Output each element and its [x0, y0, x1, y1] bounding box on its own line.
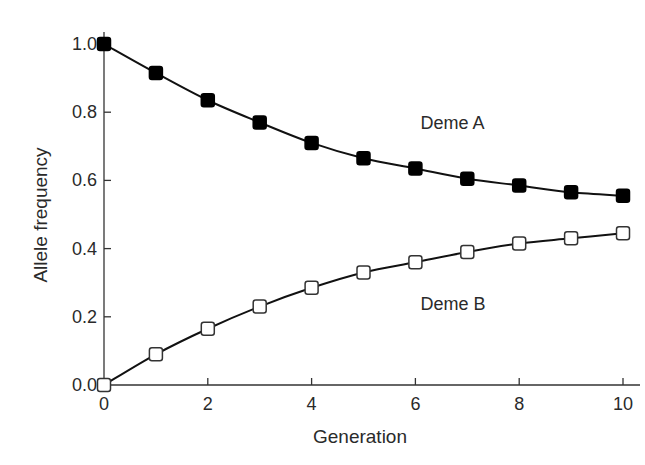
x-axis-title: Generation — [313, 426, 407, 447]
data-point-deme-a — [98, 38, 111, 51]
data-point-deme-b — [201, 322, 214, 335]
x-tick-label: 6 — [410, 394, 420, 414]
data-point-deme-a — [461, 172, 474, 185]
data-point-deme-b — [565, 232, 578, 245]
data-point-deme-a — [357, 152, 370, 165]
data-point-deme-b — [98, 379, 111, 392]
data-point-deme-a — [617, 189, 630, 202]
x-tick-label: 4 — [307, 394, 317, 414]
data-point-deme-b — [305, 281, 318, 294]
y-axis-ticks: 0.00.20.40.60.81.0 — [72, 34, 111, 395]
data-point-deme-a — [305, 136, 318, 149]
x-axis-ticks: 0246810 — [99, 378, 633, 414]
x-tick-label: 10 — [613, 394, 633, 414]
data-point-deme-b — [149, 348, 162, 361]
data-point-deme-a — [409, 162, 422, 175]
x-tick-label: 8 — [514, 394, 524, 414]
y-tick-label: 0.0 — [72, 375, 97, 395]
y-axis-title: Allele frequency — [30, 147, 51, 283]
allele-frequency-chart: 0.00.20.40.60.81.0 0246810 Generation Al… — [0, 0, 645, 465]
series-line-deme-b — [104, 233, 623, 385]
data-point-deme-a — [201, 94, 214, 107]
data-point-deme-a — [513, 179, 526, 192]
y-tick-label: 0.6 — [72, 170, 97, 190]
y-tick-label: 0.2 — [72, 307, 97, 327]
data-point-deme-a — [253, 116, 266, 129]
data-point-deme-b — [513, 237, 526, 250]
y-tick-label: 0.4 — [72, 239, 97, 259]
data-point-deme-b — [253, 300, 266, 313]
data-point-deme-b — [461, 246, 474, 259]
data-point-deme-a — [149, 66, 162, 79]
data-point-deme-a — [565, 186, 578, 199]
series-group — [98, 38, 630, 392]
series-line-deme-a — [104, 44, 623, 196]
data-point-deme-b — [409, 256, 422, 269]
axes — [104, 32, 640, 385]
data-point-deme-b — [617, 227, 630, 240]
data-point-deme-b — [357, 266, 370, 279]
series-label-deme-a: Deme A — [421, 113, 485, 133]
x-tick-label: 0 — [99, 394, 109, 414]
series-label-deme-b: Deme B — [421, 294, 486, 314]
y-tick-label: 0.8 — [72, 102, 97, 122]
x-tick-label: 2 — [203, 394, 213, 414]
y-tick-label: 1.0 — [72, 34, 97, 54]
